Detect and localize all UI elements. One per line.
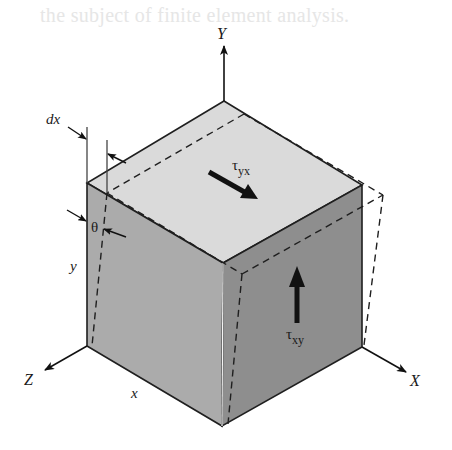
bleed-through-text: the subject of finite element analysis. <box>40 4 349 27</box>
x-axis-arrow <box>362 347 406 372</box>
z-axis-label: Z <box>24 371 34 388</box>
y-axis-label: Y <box>217 25 228 42</box>
theta-label: θ <box>91 219 98 235</box>
y-dimension-label: y <box>68 258 77 274</box>
theta-arrow-left <box>67 210 86 221</box>
x-axis-label: X <box>409 372 421 389</box>
shear-strain-cube-diagram: the subject of finite element analysis. <box>0 0 452 450</box>
dx-arrow-left <box>68 127 86 139</box>
z-axis-arrow <box>45 346 87 370</box>
diagram-canvas: Y X Z dx θ y x τyx τxy <box>0 0 452 450</box>
dx-arrow-right <box>108 154 126 163</box>
x-dimension-label: x <box>130 385 138 401</box>
dx-label: dx <box>46 111 61 127</box>
